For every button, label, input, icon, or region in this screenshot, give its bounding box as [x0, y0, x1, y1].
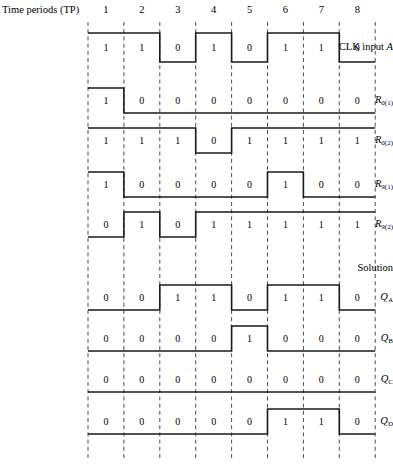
- tp-number-3: 3: [168, 4, 188, 15]
- bit-QB-tp1: 0: [96, 334, 116, 344]
- bit-QB-tp4: 0: [204, 334, 224, 344]
- bit-R0(2)-tp2: 1: [132, 136, 152, 146]
- bit-R0(1)-tp5: 0: [240, 96, 260, 106]
- bit-R0(2)-tp7: 1: [311, 136, 331, 146]
- bit-QA-tp5: 0: [240, 293, 260, 303]
- bit-R9(2)-tp3: 0: [168, 220, 188, 230]
- bit-QC-tp8: 0: [347, 375, 367, 385]
- bit-R9(2)-tp8: 1: [347, 220, 367, 230]
- bit-CLK input A-tp1: 1: [96, 43, 116, 53]
- bit-R0(2)-tp3: 1: [168, 136, 188, 146]
- bit-QC-tp3: 0: [168, 375, 188, 385]
- bit-R0(2)-tp6: 1: [275, 136, 295, 146]
- bit-QB-tp2: 0: [132, 334, 152, 344]
- waveform-canvas: [0, 0, 393, 467]
- bit-R0(2)-tp8: 1: [347, 136, 367, 146]
- bit-R9(2)-tp7: 1: [311, 220, 331, 230]
- bit-R0(2)-tp4: 0: [204, 136, 224, 146]
- time-periods-label: Time periods (TP): [2, 4, 79, 15]
- bit-R9(1)-tp5: 0: [240, 180, 260, 190]
- bit-QD-tp3: 0: [168, 417, 188, 427]
- bit-CLK input A-tp8: 0: [347, 43, 367, 53]
- bit-CLK input A-tp2: 1: [132, 43, 152, 53]
- bit-QD-tp8: 0: [347, 417, 367, 427]
- bit-R9(1)-tp1: 1: [96, 180, 116, 190]
- tp-number-7: 7: [311, 4, 331, 15]
- bit-R0(1)-tp3: 0: [168, 96, 188, 106]
- bit-QD-tp6: 1: [275, 417, 295, 427]
- tp-number-6: 6: [275, 4, 295, 15]
- bit-R9(2)-tp6: 1: [275, 220, 295, 230]
- bit-QD-tp1: 0: [96, 417, 116, 427]
- bit-CLK input A-tp6: 1: [275, 43, 295, 53]
- bit-QA-tp3: 1: [168, 293, 188, 303]
- bit-QC-tp4: 0: [204, 375, 224, 385]
- bit-R0(2)-tp5: 1: [240, 136, 260, 146]
- bit-QB-tp6: 0: [275, 334, 295, 344]
- bit-CLK input A-tp7: 1: [311, 43, 331, 53]
- bit-QD-tp2: 0: [132, 417, 152, 427]
- bit-QB-tp7: 0: [311, 334, 331, 344]
- solution-label: Solution: [309, 262, 393, 273]
- bit-R0(1)-tp4: 0: [204, 96, 224, 106]
- bit-QA-tp4: 1: [204, 293, 224, 303]
- bit-CLK input A-tp5: 0: [240, 43, 260, 53]
- bit-QA-tp6: 1: [275, 293, 295, 303]
- bit-CLK input A-tp4: 1: [204, 43, 224, 53]
- bit-QB-tp8: 0: [347, 334, 367, 344]
- bit-R0(2)-tp1: 1: [96, 136, 116, 146]
- bit-R9(1)-tp2: 0: [132, 180, 152, 190]
- bit-R9(1)-tp3: 0: [168, 180, 188, 190]
- bit-R9(1)-tp4: 0: [204, 180, 224, 190]
- bit-CLK input A-tp3: 0: [168, 43, 188, 53]
- bit-QD-tp7: 1: [311, 417, 331, 427]
- bit-QA-tp8: 0: [347, 293, 367, 303]
- bit-R0(1)-tp7: 0: [311, 96, 331, 106]
- bit-QA-tp1: 0: [96, 293, 116, 303]
- bit-R0(1)-tp2: 0: [132, 96, 152, 106]
- bit-QC-tp2: 0: [132, 375, 152, 385]
- bit-R0(1)-tp1: 1: [96, 96, 116, 106]
- bit-QD-tp4: 0: [204, 417, 224, 427]
- bit-R9(2)-tp2: 1: [132, 220, 152, 230]
- bit-QC-tp7: 0: [311, 375, 331, 385]
- bit-QA-tp2: 0: [132, 293, 152, 303]
- bit-R9(2)-tp4: 1: [204, 220, 224, 230]
- tp-number-2: 2: [132, 4, 152, 15]
- tp-number-4: 4: [204, 4, 224, 15]
- bit-QB-tp3: 0: [168, 334, 188, 344]
- tp-number-8: 8: [347, 4, 367, 15]
- tp-number-1: 1: [96, 4, 116, 15]
- tp-number-5: 5: [240, 4, 260, 15]
- bit-R9(2)-tp1: 0: [96, 220, 116, 230]
- bit-R9(1)-tp6: 1: [275, 180, 295, 190]
- bit-QC-tp1: 0: [96, 375, 116, 385]
- bit-R0(1)-tp6: 0: [275, 96, 295, 106]
- bit-R9(2)-tp5: 1: [240, 220, 260, 230]
- bit-QB-tp5: 1: [240, 334, 260, 344]
- bit-QA-tp7: 1: [311, 293, 331, 303]
- bit-QC-tp6: 0: [275, 375, 295, 385]
- timing-diagram: Time periods (TP) 12345678 CLK input AR0…: [0, 0, 393, 467]
- bit-R9(1)-tp7: 0: [311, 180, 331, 190]
- bit-R9(1)-tp8: 0: [347, 180, 367, 190]
- bit-R0(1)-tp8: 0: [347, 96, 367, 106]
- bit-QC-tp5: 0: [240, 375, 260, 385]
- bit-QD-tp5: 0: [240, 417, 260, 427]
